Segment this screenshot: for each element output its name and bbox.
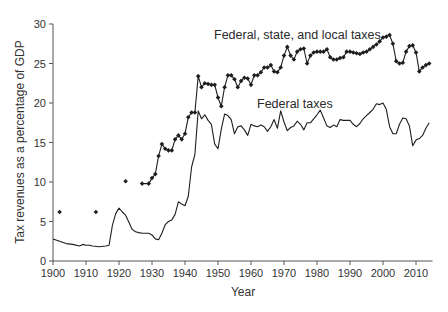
plot-area: [53, 33, 432, 247]
data-point-marker: [401, 60, 406, 65]
data-point-marker: [285, 45, 290, 50]
x-tick-label: 1900: [41, 267, 65, 279]
series-federal-taxes: [53, 103, 429, 247]
data-point-marker: [305, 61, 310, 66]
x-tick-label: 1930: [140, 267, 164, 279]
y-tick-label: 5: [40, 216, 46, 228]
data-point-marker: [282, 53, 287, 58]
data-point-marker: [410, 43, 415, 48]
x-tick-label: 1990: [338, 267, 362, 279]
y-tick-label: 30: [34, 18, 46, 30]
tax-revenue-chart: Tax revenues as a percentage of GDP Year…: [0, 0, 448, 312]
x-tick-label: 1950: [206, 267, 230, 279]
data-point-marker: [94, 210, 99, 215]
series-line: [53, 103, 429, 247]
x-tick-label: 1970: [272, 267, 296, 279]
data-point-marker: [272, 69, 277, 74]
data-point-marker: [206, 82, 211, 87]
y-tick-label: 0: [40, 255, 46, 267]
x-tick-label: 1920: [107, 267, 131, 279]
data-point-marker: [212, 83, 217, 88]
data-point-marker: [348, 49, 353, 54]
data-point-marker: [222, 85, 227, 90]
y-tick-label: 10: [34, 176, 46, 188]
data-point-marker: [219, 104, 224, 109]
data-point-marker: [404, 49, 409, 54]
x-tick-label: 1940: [173, 267, 197, 279]
x-tick-label: 2000: [371, 267, 395, 279]
data-point-marker: [196, 74, 201, 79]
data-point-marker: [341, 55, 346, 60]
data-point-marker: [216, 95, 221, 100]
data-point-marker: [391, 41, 396, 46]
x-tick-label: 1910: [74, 267, 98, 279]
annotation-total-taxes: Federal, state, and local taxes: [214, 28, 381, 42]
data-point-marker: [236, 85, 241, 90]
data-point-marker: [170, 148, 175, 153]
x-axis-title: Year: [231, 285, 255, 299]
x-tick-label: 1960: [239, 267, 263, 279]
series-total-taxes: [57, 33, 431, 215]
data-point-marker: [156, 154, 161, 159]
data-point-marker: [140, 181, 145, 186]
annotation-federal-taxes: Federal taxes: [257, 97, 333, 111]
y-tick-label: 20: [34, 97, 46, 109]
data-point-marker: [354, 51, 359, 56]
y-tick-label: 15: [34, 137, 46, 149]
data-point-marker: [245, 76, 250, 81]
data-point-marker: [351, 50, 356, 55]
y-tick-label: 25: [34, 58, 46, 70]
y-axis-title: Tax revenues as a percentage of GDP: [13, 40, 27, 243]
data-point-marker: [249, 83, 254, 88]
axes: 0510152025301900191019201930194019501960…: [34, 18, 433, 279]
x-tick-label: 1980: [305, 267, 329, 279]
data-point-marker: [57, 210, 62, 215]
data-point-marker: [302, 46, 307, 51]
data-point-marker: [414, 50, 419, 55]
data-point-marker: [193, 110, 198, 115]
data-point-marker: [123, 179, 128, 184]
x-tick-label: 2010: [404, 267, 428, 279]
